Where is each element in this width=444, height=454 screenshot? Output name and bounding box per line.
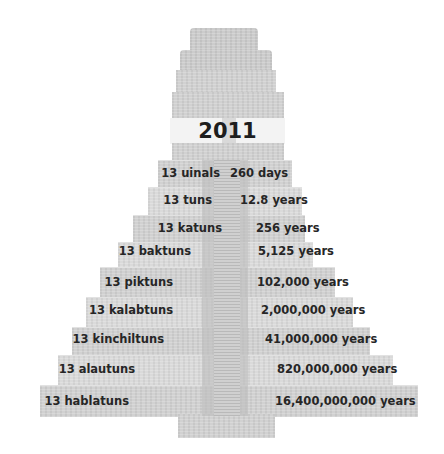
unit-label: 13 katuns: [158, 221, 222, 235]
duration-label: 16,400,000,000 years: [275, 394, 416, 408]
duration-label: 260 days: [230, 166, 288, 180]
temple-roof: [180, 50, 272, 72]
duration-label: 102,000 years: [257, 275, 349, 289]
central-stairway: [214, 160, 240, 416]
duration-label: 2,000,000 years: [261, 303, 365, 317]
unit-label: 13 alautuns: [59, 362, 135, 376]
year-band: 2011: [170, 118, 285, 144]
unit-label: 13 piktuns: [104, 275, 173, 289]
temple-top: [176, 70, 276, 94]
temple-roof-comb: [190, 28, 258, 52]
unit-label: 13 tuns: [163, 193, 212, 207]
temple-base: [172, 143, 284, 161]
duration-label: 12.8 years: [240, 193, 308, 207]
unit-label: 13 kinchiltuns: [73, 332, 164, 346]
unit-label: 13 baktuns: [119, 244, 191, 258]
year-label: 2011: [198, 119, 256, 143]
duration-label: 41,000,000 years: [265, 332, 377, 346]
base-platform: [178, 414, 275, 438]
unit-label: 13 kalabtuns: [89, 303, 173, 317]
unit-label: 13 hablatuns: [44, 394, 129, 408]
duration-label: 5,125 years: [258, 244, 334, 258]
temple-upper: [172, 92, 284, 119]
duration-label: 820,000,000 years: [277, 362, 397, 376]
unit-label: 13 uinals: [161, 166, 220, 180]
mayan-pyramid-diagram: 2011 13 uinals 260 days 13 tuns 12.8 yea…: [0, 0, 444, 454]
duration-label: 256 years: [256, 221, 320, 235]
